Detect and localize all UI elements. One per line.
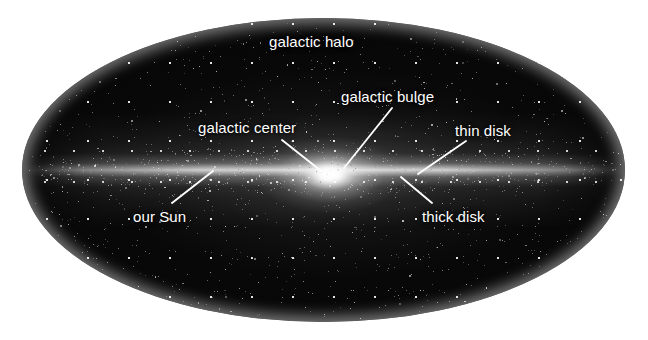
label-galactic-bulge: galactic bulge: [341, 89, 434, 104]
annotation-layer: galactic halo galactic bulge galactic ce…: [0, 0, 648, 340]
label-thick-disk: thick disk: [422, 209, 485, 224]
diagram-canvas: galactic halo galactic bulge galactic ce…: [0, 0, 648, 340]
label-thin-disk: thin disk: [455, 123, 511, 138]
label-our-sun: our Sun: [133, 209, 186, 224]
label-galactic-halo: galactic halo: [269, 34, 354, 49]
label-galactic-center: galactic center: [198, 120, 296, 135]
